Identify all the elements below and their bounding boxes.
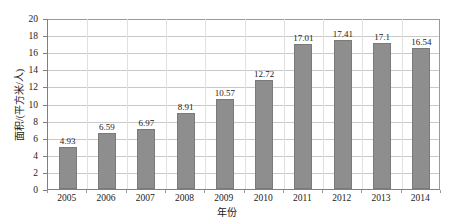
y-axis-tick-label: 4: [33, 151, 38, 161]
bar-value-label-2007: 6.97: [138, 119, 154, 128]
y-axis-tick-label: 8: [33, 117, 38, 127]
x-axis-tick-label-2006: 2006: [96, 193, 115, 204]
x-axis-tick-label-2009: 2009: [214, 193, 233, 204]
y-axis-tick-label: 6: [33, 134, 38, 144]
bar-value-label-2013: 17.1: [374, 33, 390, 42]
bar-2006: [98, 133, 116, 189]
bar-2009: [216, 99, 234, 189]
bar-2012: [334, 40, 352, 189]
bar-value-label-2009: 10.57: [215, 89, 235, 98]
y-axis-tick-labels: 02468101214161820: [0, 19, 44, 190]
x-axis-tick-label-2010: 2010: [254, 193, 273, 204]
y-axis-tick-label: 18: [29, 31, 39, 41]
bar-2008: [177, 113, 195, 189]
bar-2014: [412, 48, 430, 189]
bar-value-label-2014: 16.54: [411, 38, 431, 47]
bar-value-label-2011: 17.01: [293, 34, 313, 43]
gridline-x-2011: [284, 19, 285, 189]
bar-value-label-2010: 12.72: [254, 70, 274, 79]
x-axis-title: 年份: [0, 207, 454, 218]
gridline-x-2008: [166, 19, 167, 189]
gridline-x-2013: [362, 19, 363, 189]
x-axis-tick-label-2008: 2008: [175, 193, 194, 204]
plot-area: 4.936.596.978.9110.5712.7217.0117.4117.1…: [47, 19, 440, 190]
bar-value-label-2005: 4.93: [60, 137, 76, 146]
bar-2011: [294, 44, 312, 189]
bar-2005: [59, 147, 77, 189]
x-axis-tick-label-2014: 2014: [411, 193, 430, 204]
bar-2013: [373, 43, 391, 189]
y-axis-tick-label: 10: [29, 100, 39, 110]
gridline-x-2006: [87, 19, 88, 189]
y-axis-tick-label: 20: [29, 14, 39, 24]
gridline-y-20: [48, 19, 439, 20]
x-axis-tick-label-2005: 2005: [57, 193, 76, 204]
bar-2010: [255, 80, 273, 189]
y-axis-tick-label: 12: [29, 82, 39, 92]
gridline-x-2009: [205, 19, 206, 189]
bar-value-label-2006: 6.59: [99, 123, 115, 132]
gridline-x-2012: [323, 19, 324, 189]
x-axis-tick-label-2007: 2007: [136, 193, 155, 204]
bar-value-label-2012: 17.41: [333, 30, 353, 39]
x-axis-tick-label-2012: 2012: [332, 193, 351, 204]
y-axis-tick-label: 0: [33, 185, 38, 195]
bar-chart: 面积/(平方米/人) 02468101214161820 4.936.596.9…: [0, 0, 454, 224]
y-axis-tick-label: 16: [29, 48, 39, 58]
y-axis-tick-label: 2: [33, 168, 38, 178]
bar-value-label-2008: 8.91: [178, 103, 194, 112]
gridline-x-2007: [127, 19, 128, 189]
y-axis-tick-label: 14: [29, 65, 39, 75]
bar-2007: [137, 129, 155, 189]
gridline-x-2010: [245, 19, 246, 189]
x-axis-tick-mark: [440, 190, 441, 193]
x-axis-tick-label-2011: 2011: [293, 193, 312, 204]
gridline-x-2014: [402, 19, 403, 189]
x-axis-tick-label-2013: 2013: [372, 193, 391, 204]
